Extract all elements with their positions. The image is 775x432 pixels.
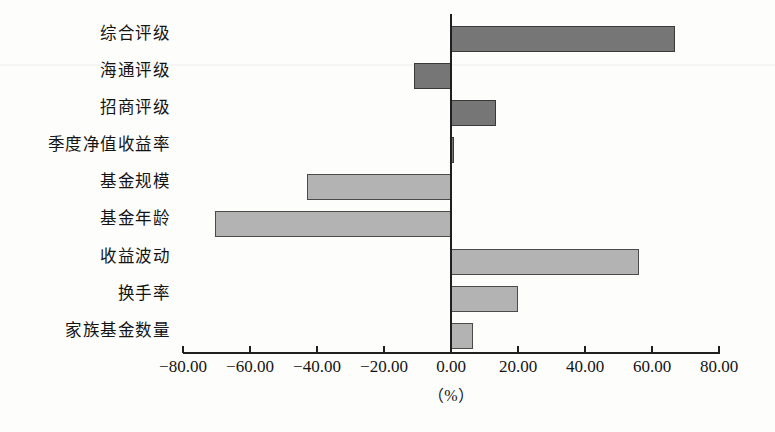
bar-2: [451, 100, 496, 126]
x-axis-tick-label: 80.00: [700, 358, 738, 375]
category-label: 综合评级: [100, 26, 170, 43]
x-axis-tick: [718, 346, 720, 353]
x-axis-tick: [249, 346, 251, 353]
x-axis-tick-label: 0.00: [436, 358, 466, 375]
x-axis-tick-label: −80.00: [159, 358, 207, 375]
x-axis-unit-label: （%）: [428, 388, 473, 404]
category-label: 海通评级: [100, 63, 170, 80]
y-axis-category-labels: 综合评级 海通评级 招商评级 季度净值收益率 基金规模 基金年龄 收益波动 换手…: [0, 0, 178, 348]
plot-area: [183, 14, 719, 348]
x-axis-tick-label: 40.00: [566, 358, 604, 375]
x-axis-tick: [182, 346, 184, 353]
bar-chart: 综合评级 海通评级 招商评级 季度净值收益率 基金规模 基金年龄 收益波动 换手…: [0, 0, 775, 432]
bar-6: [451, 249, 639, 275]
bar-1: [414, 63, 451, 89]
x-axis-tick: [584, 346, 586, 353]
x-axis-tick: [517, 346, 519, 353]
x-axis-tick-label: −40.00: [293, 358, 341, 375]
bar-5: [215, 211, 451, 237]
x-axis-tick: [651, 346, 653, 353]
bar-0: [451, 26, 675, 52]
category-label: 换手率: [118, 286, 171, 303]
x-axis-tick: [450, 346, 452, 353]
category-label: 招商评级: [100, 100, 170, 117]
x-axis-tick-label: −20.00: [360, 358, 408, 375]
bar-7: [451, 286, 518, 312]
x-axis-tick: [316, 346, 318, 353]
zero-baseline: [450, 14, 452, 348]
category-label: 季度净值收益率: [48, 137, 171, 154]
category-label: 基金年龄: [100, 211, 170, 228]
bar-8: [451, 323, 473, 349]
x-axis-tick: [383, 346, 385, 353]
category-label: 收益波动: [100, 249, 170, 266]
category-label: 基金规模: [100, 174, 170, 191]
bar-4: [307, 174, 451, 200]
x-axis-tick-label: 60.00: [633, 358, 671, 375]
category-label: 家族基金数量: [65, 323, 170, 340]
x-axis-tick-label: 20.00: [499, 358, 537, 375]
x-axis-tick-label: −60.00: [226, 358, 274, 375]
